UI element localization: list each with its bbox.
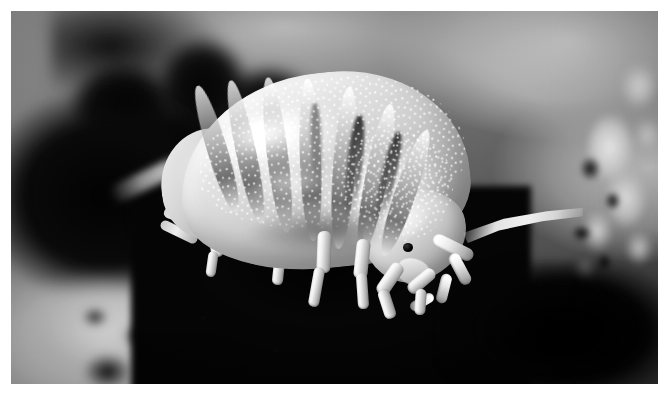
pleon-abdomen [154, 123, 261, 247]
pereopod-4-tarsus [356, 273, 369, 310]
pereopod-6-tarsus [414, 289, 427, 316]
debris-strand [463, 207, 583, 249]
segment-band-3 [310, 103, 324, 187]
cuticle-tubercles-rear [332, 122, 461, 250]
pereon-thorax [170, 58, 479, 282]
woodlouse [11, 11, 658, 384]
tergite-segment-4 [297, 79, 324, 242]
dark-litter-mass-bottom-right [441, 261, 658, 384]
underbody-shadow [224, 202, 427, 270]
pereopod-1-tarsus [205, 250, 219, 277]
soil-substrate [131, 186, 531, 384]
debris-cluster-right [511, 101, 658, 311]
pereopod-5-femur [374, 260, 406, 298]
tergite-segment-1 [188, 83, 246, 215]
cuticle-tubercles-back [190, 63, 472, 240]
compound-eye [403, 243, 413, 252]
uropod-lower [159, 219, 199, 246]
pereopod-6-femur [405, 266, 438, 297]
specular-highlight-flank [237, 156, 337, 212]
pereopod-2-femur [272, 225, 289, 264]
uropod-upper [162, 206, 209, 231]
film-grain-overlay [11, 11, 658, 384]
soil-substrate-grain [131, 191, 531, 384]
segment-band-1 [342, 115, 368, 220]
cephalon-head [356, 181, 474, 290]
pereopod-4-femur [353, 238, 371, 279]
foreground-dark-specks [41, 296, 221, 384]
debris-cluster-far-right [603, 41, 658, 171]
tergite-segment-2 [221, 79, 271, 226]
pereopod-2-tarsus [272, 257, 286, 286]
tergite-segment-7 [374, 127, 437, 259]
specular-highlight-dome [211, 93, 342, 182]
foreground-blur-left [11, 261, 261, 384]
blurred-limb-left [107, 151, 192, 205]
gradient-field-backdrop [11, 11, 658, 384]
vignette-overlay [11, 11, 658, 384]
tergite-segment-6 [351, 102, 402, 255]
pereopod-3-tarsus [308, 266, 326, 307]
pereopod-5-tarsus [377, 288, 398, 320]
debris-dark-flecks-right [523, 129, 658, 309]
tergite-segment-3 [258, 76, 298, 233]
pereopod-3-femur [316, 231, 331, 273]
pereopod-1-femur [206, 222, 225, 258]
mouthparts [394, 255, 434, 289]
image-canvas [0, 0, 669, 398]
segment-band-2 [370, 131, 405, 228]
antenna-segment-2 [447, 251, 474, 287]
antenna-segment-1 [430, 232, 475, 263]
photograph-plate [11, 11, 658, 384]
tergite-segment-5 [327, 86, 360, 249]
antenna-flagellum-tip [408, 291, 436, 313]
antenna-segment-3 [435, 273, 453, 305]
dark-litter-mass-left [11, 71, 261, 321]
dark-litter-mass-top-left [51, 11, 381, 179]
